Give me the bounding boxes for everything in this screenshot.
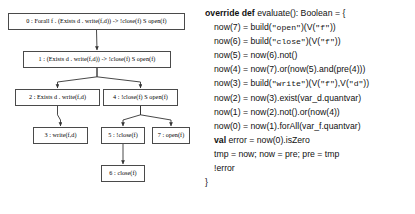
tree-node-1[interactable]: 1 : (Exists d . write(f,d)) -> !close(f)… [23, 51, 171, 68]
tree-node-5[interactable]: 5 : !close(f) [101, 127, 145, 144]
code-line: override def evaluate(): Boolean = { [205, 6, 415, 20]
tree-edge-2-to-3 [58, 106, 61, 126]
tree-node-label: 1 : (Exists d . write(f,d)) -> !close(f)… [39, 56, 156, 62]
code-text: now(5) = now(6).not() [214, 50, 297, 60]
code-line: } [205, 175, 415, 189]
code-line: now(5) = now(6).not() [205, 48, 415, 62]
tree-node-6[interactable]: 6 : close(f) [101, 165, 145, 182]
code-line: val error = now(0).isZero [205, 133, 415, 147]
code-line: now(4) = now(7).or(now(5).and(pre(4))) [205, 62, 415, 76]
code-text: now(2) = now(3).exist(var_d.quantvar) [214, 93, 361, 103]
tree-node-label: 5 : !close(f) [108, 132, 138, 138]
code-string-literal: "close" [272, 37, 306, 46]
code-text: !error [214, 163, 235, 173]
tree-edge-1-to-2 [58, 68, 98, 88]
code-text: evaluate(): Boolean = { [255, 8, 346, 18]
tree-edge-0-to-1 [97, 30, 98, 50]
code-line: now(3) = build("write")(V("f"),V("d")) [205, 76, 415, 90]
code-line: now(1) = now(2).not().or(now(4)) [205, 105, 415, 119]
code-text: )(V( [306, 36, 320, 46]
code-line: tmp = now; now = pre; pre = tmp [205, 147, 415, 161]
code-string-literal: "d" [349, 79, 364, 88]
code-line: now(2) = now(3).exist(var_d.quantvar) [205, 91, 415, 105]
code-text: now(7) = build( [214, 22, 272, 32]
code-text: )) [363, 78, 369, 88]
code-text: now(1) = now(2).not().or(now(4)) [214, 107, 340, 117]
code-keyword: override def [205, 8, 255, 18]
tree-node-7[interactable]: 7 : open(f) [152, 127, 190, 144]
code-text: tmp = now; now = pre; pre = tmp [214, 149, 339, 159]
code-listing: override def evaluate(): Boolean = {now(… [205, 0, 415, 214]
tree-node-label: 3 : write(f,d) [44, 132, 76, 138]
code-text: now(4) = now(7).or(now(5).and(pre(4))) [214, 64, 365, 74]
tree-node-0[interactable]: 0 : Forall f . (Exists d . write(f,d)) -… [8, 13, 185, 30]
code-string-literal: "f" [320, 79, 335, 88]
tree-node-label: 2 : Exists d . write(f,d) [29, 94, 86, 100]
code-keyword: val [214, 135, 226, 145]
tree-node-label: 0 : Forall f . (Exists d . write(f,d)) -… [26, 18, 166, 24]
tree-edge-4-to-7 [141, 106, 172, 126]
code-string-literal: "open" [272, 23, 301, 32]
code-line: now(0) = now(1).forAll(var_f.quantvar) [205, 119, 415, 133]
code-line: now(6) = build("close")(V("f")) [205, 34, 415, 48]
parse-tree-diagram: 0 : Forall f . (Exists d . write(f,d)) -… [0, 0, 205, 214]
tree-node-label: 7 : open(f) [158, 132, 185, 138]
tree-node-label: 4 : !close(f) S open(f) [113, 94, 168, 100]
tree-node-2[interactable]: 2 : Exists d . write(f,d) [15, 89, 100, 106]
code-text: } [205, 177, 208, 187]
code-line: !error [205, 161, 415, 175]
tree-node-4[interactable]: 4 : !close(f) S open(f) [103, 89, 178, 106]
tree-edge-1-to-4 [97, 68, 141, 88]
tree-node-3[interactable]: 3 : write(f,d) [33, 127, 88, 144]
code-text: now(3) = build( [214, 78, 272, 88]
code-text: error = now(0).isZero [226, 135, 310, 145]
code-string-literal: "write" [272, 79, 306, 88]
tree-node-label: 6 : close(f) [109, 170, 136, 176]
code-text: now(6) = build( [214, 36, 272, 46]
code-line: now(7) = build("open")(V("f")) [205, 20, 415, 34]
code-text: now(0) = now(1).forAll(var_f.quantvar) [214, 121, 361, 131]
code-string-literal: "f" [320, 37, 335, 46]
code-text: ),V( [335, 78, 349, 88]
tree-edge-4-to-5 [123, 106, 141, 126]
code-text: )(V( [306, 78, 320, 88]
code-text: )(V( [301, 22, 315, 32]
code-string-literal: "f" [315, 23, 330, 32]
screenshot-root: 0 : Forall f . (Exists d . write(f,d)) -… [0, 0, 415, 214]
code-text: )) [335, 36, 341, 46]
code-text: )) [330, 22, 336, 32]
